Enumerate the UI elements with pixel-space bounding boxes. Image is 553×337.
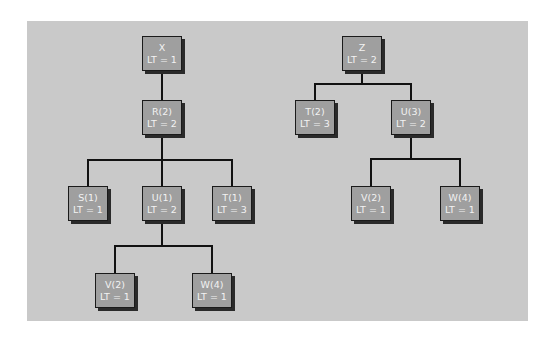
node-lt: LT = 1	[100, 291, 130, 303]
node-label: R(2)	[152, 106, 172, 118]
node-lt: LT = 1	[356, 204, 386, 216]
node-lt: LT = 2	[396, 118, 426, 130]
node-label: S(1)	[78, 192, 98, 204]
node-label: U(1)	[152, 192, 172, 204]
node-z: Z LT = 2	[342, 36, 382, 71]
node-w4: W(4) LT = 1	[440, 186, 480, 221]
node-label: T(2)	[305, 106, 324, 118]
node-t: T(1) LT = 3	[212, 186, 252, 221]
node-w: W(4) LT = 1	[192, 273, 232, 308]
node-lt: LT = 3	[217, 204, 247, 216]
node-s: S(1) LT = 1	[68, 186, 108, 221]
node-v: V(2) LT = 1	[95, 273, 135, 308]
tree-edges	[0, 0, 553, 337]
node-lt: LT = 2	[347, 54, 377, 66]
node-lt: LT = 2	[147, 118, 177, 130]
node-label: T(1)	[222, 192, 241, 204]
node-label: W(4)	[449, 192, 472, 204]
node-label: Z	[359, 42, 366, 54]
node-v2: V(2) LT = 1	[351, 186, 391, 221]
node-label: V(2)	[361, 192, 381, 204]
node-lt: LT = 1	[445, 204, 475, 216]
edge-u3-children	[371, 135, 460, 186]
node-u: U(1) LT = 2	[142, 186, 182, 221]
edge-r-children	[88, 135, 232, 186]
node-label: X	[159, 42, 166, 54]
edge-u-children	[115, 221, 212, 273]
node-u3: U(3) LT = 2	[391, 100, 431, 135]
node-label: V(2)	[105, 279, 125, 291]
node-lt: LT = 3	[300, 118, 330, 130]
node-x: X LT = 1	[142, 36, 182, 71]
node-r: R(2) LT = 2	[142, 100, 182, 135]
edge-z-children	[315, 71, 411, 100]
node-t2: T(2) LT = 3	[295, 100, 335, 135]
node-lt: LT = 1	[147, 54, 177, 66]
node-lt: LT = 2	[147, 204, 177, 216]
node-label: U(3)	[401, 106, 421, 118]
node-lt: LT = 1	[197, 291, 227, 303]
node-lt: LT = 1	[73, 204, 103, 216]
node-label: W(4)	[201, 279, 224, 291]
